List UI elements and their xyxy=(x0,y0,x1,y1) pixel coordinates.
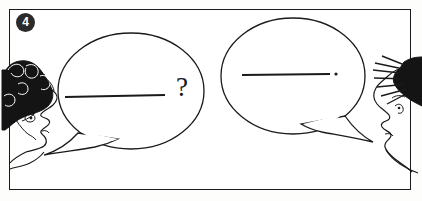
left-jaw-line xyxy=(10,152,44,169)
right-bubble xyxy=(221,18,373,142)
right-bubble-period xyxy=(334,72,337,75)
right-bubble-text-line xyxy=(242,74,330,75)
right-lips xyxy=(385,134,393,136)
left-lips xyxy=(42,131,49,133)
panel-number-badge: 4 xyxy=(16,13,35,32)
left-bubble-question-mark: ? xyxy=(176,74,188,101)
left-cheek-line xyxy=(16,120,36,140)
left-hair-mass xyxy=(2,61,53,130)
panel-artwork xyxy=(0,0,422,201)
right-character xyxy=(373,56,422,173)
comic-panel: 4 ? xyxy=(0,0,422,201)
right-jaw-line xyxy=(386,150,418,173)
right-pupil xyxy=(398,107,401,110)
